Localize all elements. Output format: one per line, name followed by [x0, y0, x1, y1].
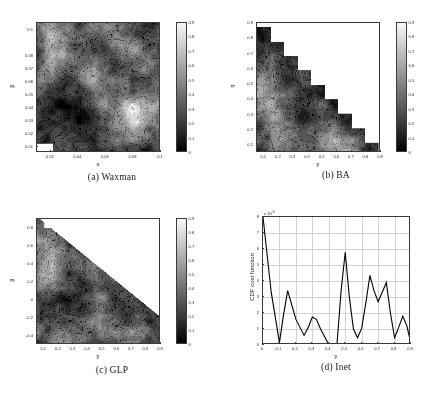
y-tick-mark	[36, 245, 38, 246]
y-tick-mark	[262, 312, 264, 313]
y-tick-label: 0	[14, 297, 33, 302]
y-tick-mark	[36, 317, 38, 318]
y-tick-label: 0.2	[234, 127, 253, 132]
x-tick-mark	[311, 342, 312, 344]
y-tick-label: 0.06	[14, 78, 33, 83]
x-tick-label: 0.6	[358, 346, 364, 351]
colorbar-tick-label: 0	[189, 150, 191, 155]
y-tick-mark	[36, 146, 38, 147]
y-tick-label: 0.2	[14, 279, 33, 284]
y-tick-label: 8	[240, 214, 259, 219]
colorbar-tick-label: 0.2	[189, 314, 195, 319]
colorbar-tick-label: 0.7	[189, 48, 195, 53]
x-tick-label: 0.9	[157, 346, 163, 351]
y-tick-label: 1	[240, 326, 259, 331]
colorbar-tick-label: 0.3	[189, 106, 195, 111]
y-tick-label: 0.1	[234, 142, 253, 147]
y-tick-label: 0.4	[14, 261, 33, 266]
x-tick-label: 0.1	[276, 346, 282, 351]
y-tick-label: 0.8	[234, 35, 253, 40]
plot-area-inet	[262, 216, 410, 344]
colorbar-ba	[396, 22, 407, 152]
contour-canvas-ba	[257, 23, 379, 151]
x-tick-mark	[292, 150, 293, 152]
x-tick-label: 0.3	[290, 154, 296, 159]
x-tick-mark	[322, 150, 323, 152]
y-axis-label-waxman: β	[9, 76, 15, 96]
x-tick-mark	[116, 342, 117, 344]
y-tick-mark	[262, 216, 264, 217]
colorbar-tick-label: 0.1	[189, 328, 195, 333]
y-tick-label: -0.4	[14, 333, 33, 338]
x-tick-mark	[145, 342, 146, 344]
y-tick-label: 0.6	[234, 65, 253, 70]
colorbar-tick-label: 0.3	[409, 106, 415, 111]
colorbar-tick-label: 0.6	[189, 258, 195, 263]
x-tick-label: 0.2	[275, 154, 281, 159]
x-tick-label: 0.6	[333, 154, 339, 159]
panel-inet: 00.10.20.30.40.50.60.70.80.9012345678 CD…	[224, 200, 448, 400]
y-tick-mark	[262, 296, 264, 297]
x-tick-mark	[394, 342, 395, 344]
y-tick-mark	[36, 299, 38, 300]
contour-canvas-glp	[37, 219, 159, 343]
y-tick-mark	[262, 328, 264, 329]
panel-glp: 0.10.20.30.40.50.60.70.80.90.80.60.40.20…	[0, 200, 224, 400]
x-tick-mark	[72, 342, 73, 344]
colorbar-tick-label: 0.2	[409, 121, 415, 126]
y-tick-label: 0.08	[14, 52, 33, 57]
x-tick-mark	[344, 342, 345, 344]
y-tick-label: -0.2	[14, 315, 33, 320]
colorbar-tick-label: 0.9	[189, 216, 195, 221]
colorbar-tick-label: 0.1	[409, 135, 415, 140]
x-tick-label: 0.3	[70, 346, 76, 351]
y-tick-mark	[36, 133, 38, 134]
x-tick-mark	[295, 342, 296, 344]
plot-area-waxman	[36, 22, 160, 152]
y-tick-label: 0	[240, 342, 259, 347]
y-tick-mark	[36, 263, 38, 264]
x-tick-mark	[43, 342, 44, 344]
figure-sheet: 0.020.040.060.080.10.010.020.030.040.050…	[0, 0, 448, 400]
y-tick-mark	[256, 83, 258, 84]
y-tick-mark	[36, 81, 38, 82]
caption-inet: (d) Inet	[224, 362, 448, 372]
y-axis-label-inet: CDF cost function	[249, 247, 255, 307]
y-tick-label: 0.5	[234, 81, 253, 86]
x-tick-label: 0.8	[363, 154, 369, 159]
y-tick-label: 0.03	[14, 117, 33, 122]
x-tick-label: 0.7	[128, 346, 134, 351]
colorbar-tick-label: 0.9	[409, 20, 415, 25]
y-tick-mark	[36, 107, 38, 108]
x-tick-label: 0.1	[260, 154, 266, 159]
x-axis-label-waxman: α	[88, 161, 108, 167]
y-tick-label: 0.7	[234, 50, 253, 55]
y-tick-mark	[36, 68, 38, 69]
y-tick-mark	[256, 144, 258, 145]
y-tick-mark	[36, 120, 38, 121]
x-tick-mark	[58, 342, 59, 344]
x-tick-mark	[263, 150, 264, 152]
x-tick-mark	[77, 150, 78, 152]
x-tick-mark	[410, 342, 411, 344]
x-tick-mark	[307, 150, 308, 152]
x-tick-mark	[278, 150, 279, 152]
x-tick-label: 0.7	[374, 346, 380, 351]
x-axis-label-glp: p	[88, 353, 108, 359]
x-tick-mark	[131, 342, 132, 344]
caption-glp: (c) GLP	[0, 365, 224, 375]
y-tick-mark	[256, 53, 258, 54]
y-tick-mark	[256, 22, 258, 23]
x-tick-label: 0.08	[128, 154, 136, 159]
colorbar-tick-label: 0	[409, 150, 411, 155]
x-tick-label: 0.6	[113, 346, 119, 351]
x-tick-label: 0.5	[319, 154, 325, 159]
x-tick-label: 0.04	[73, 154, 81, 159]
colorbar-tick-label: 0.6	[189, 63, 195, 68]
colorbar-glp	[176, 218, 187, 344]
x-axis-label-ba: p	[308, 161, 328, 167]
y-tick-label: 0.3	[234, 111, 253, 116]
x-tick-label: 0.02	[46, 154, 54, 159]
x-tick-label: 0.9	[407, 346, 413, 351]
x-tick-label: 0.2	[292, 346, 298, 351]
